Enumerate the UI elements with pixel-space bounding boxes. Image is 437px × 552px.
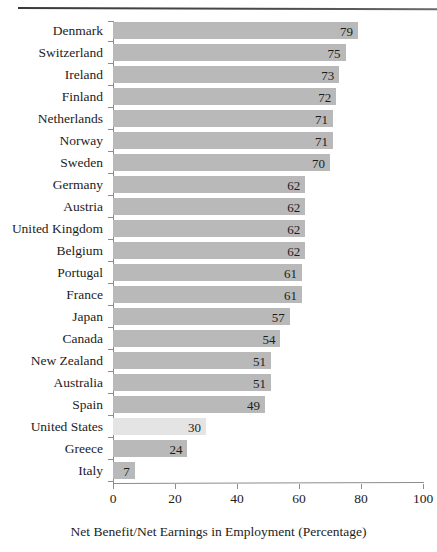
bar: 30 bbox=[113, 418, 206, 435]
bar: 71 bbox=[113, 132, 333, 149]
category-label: Netherlands bbox=[0, 110, 107, 127]
bar: 79 bbox=[113, 22, 358, 39]
y-axis-tick bbox=[108, 63, 113, 64]
bar: 57 bbox=[113, 308, 290, 325]
x-axis-tick-label: 40 bbox=[230, 491, 244, 506]
y-axis-tick bbox=[108, 41, 113, 42]
y-axis-tick bbox=[108, 173, 113, 174]
y-axis-tick bbox=[108, 129, 113, 130]
y-axis-tick bbox=[108, 85, 113, 86]
x-axis-tick-label: 60 bbox=[292, 491, 306, 506]
bar-value-label: 71 bbox=[315, 134, 333, 147]
category-label: Switzerland bbox=[0, 44, 107, 61]
category-label: Canada bbox=[0, 330, 107, 347]
category-label: Greece bbox=[0, 440, 107, 457]
y-axis-tick bbox=[108, 261, 113, 262]
bar: 72 bbox=[113, 88, 336, 105]
x-axis-tick-label: 80 bbox=[354, 491, 368, 506]
category-label: Italy bbox=[0, 462, 107, 479]
category-label: Sweden bbox=[0, 154, 107, 171]
bar-value-label: 62 bbox=[287, 222, 305, 235]
bar-value-label: 24 bbox=[169, 442, 187, 455]
x-axis-tick-label: 20 bbox=[168, 491, 182, 506]
y-axis-tick bbox=[108, 195, 113, 196]
x-axis-line bbox=[113, 482, 424, 484]
bar: 49 bbox=[113, 396, 265, 413]
bar: 24 bbox=[113, 440, 187, 457]
bar-value-label: 57 bbox=[272, 310, 290, 323]
y-axis-tick bbox=[108, 107, 113, 108]
bar: 51 bbox=[113, 374, 271, 391]
bar-value-label: 51 bbox=[253, 376, 271, 389]
category-label: France bbox=[0, 286, 107, 303]
y-axis-tick bbox=[108, 349, 113, 350]
y-axis-tick bbox=[108, 415, 113, 416]
bar-value-label: 71 bbox=[315, 112, 333, 125]
bar: 54 bbox=[113, 330, 280, 347]
category-label: Denmark bbox=[0, 22, 107, 39]
plot-area: 7975737271717062626262616157545151493024… bbox=[113, 18, 423, 480]
bar-value-label: 51 bbox=[253, 354, 271, 367]
category-label: Spain bbox=[0, 396, 107, 413]
category-label: New Zealand bbox=[0, 352, 107, 369]
category-label: United Kingdom bbox=[0, 220, 107, 237]
bar-value-label: 62 bbox=[287, 178, 305, 191]
bar-value-label: 75 bbox=[328, 46, 346, 59]
category-label: Portugal bbox=[0, 264, 107, 281]
bar-value-label: 72 bbox=[318, 90, 336, 103]
bar-value-label: 54 bbox=[262, 332, 280, 345]
bar-value-label: 49 bbox=[247, 398, 265, 411]
bar-value-label: 62 bbox=[287, 244, 305, 257]
x-axis-tick bbox=[423, 484, 424, 489]
bar-value-label: 7 bbox=[123, 464, 135, 477]
y-axis-tick bbox=[108, 481, 113, 482]
bar: 70 bbox=[113, 154, 330, 171]
bar: 61 bbox=[113, 264, 302, 281]
category-label: Ireland bbox=[0, 66, 107, 83]
x-axis-tick-label: 100 bbox=[413, 491, 433, 506]
category-label: United States bbox=[0, 418, 107, 435]
y-axis-tick bbox=[108, 327, 113, 328]
y-axis-tick bbox=[108, 239, 113, 240]
bar-value-label: 73 bbox=[321, 68, 339, 81]
bar-value-label: 61 bbox=[284, 266, 302, 279]
bar: 75 bbox=[113, 44, 346, 61]
y-axis-tick bbox=[108, 217, 113, 218]
y-axis-tick bbox=[108, 437, 113, 438]
bar-value-label: 30 bbox=[188, 420, 206, 433]
x-axis-tick bbox=[361, 484, 362, 489]
x-axis-tick bbox=[299, 484, 300, 489]
category-axis-labels: DenmarkSwitzerlandIrelandFinlandNetherla… bbox=[0, 18, 107, 480]
bar: 62 bbox=[113, 198, 305, 215]
bar-value-label: 62 bbox=[287, 200, 305, 213]
bar-value-label: 61 bbox=[284, 288, 302, 301]
bar: 61 bbox=[113, 286, 302, 303]
x-axis-tick bbox=[175, 484, 176, 489]
category-label: Austria bbox=[0, 198, 107, 215]
y-axis-tick bbox=[108, 371, 113, 372]
category-label: Belgium bbox=[0, 242, 107, 259]
bar-value-label: 70 bbox=[312, 156, 330, 169]
x-axis-tick bbox=[237, 484, 238, 489]
bar: 62 bbox=[113, 176, 305, 193]
y-axis-tick bbox=[108, 283, 113, 284]
bar-chart: DenmarkSwitzerlandIrelandFinlandNetherla… bbox=[0, 0, 437, 552]
bar: 71 bbox=[113, 110, 333, 127]
y-axis-tick bbox=[108, 393, 113, 394]
x-axis-title: Net Benefit/Net Earnings in Employment (… bbox=[0, 524, 437, 540]
bar: 62 bbox=[113, 242, 305, 259]
x-axis-tick-label: 0 bbox=[110, 491, 117, 506]
bar: 73 bbox=[113, 66, 339, 83]
bar: 51 bbox=[113, 352, 271, 369]
category-label: Australia bbox=[0, 374, 107, 391]
bar-value-label: 79 bbox=[340, 24, 358, 37]
y-axis-tick bbox=[108, 459, 113, 460]
y-axis-tick bbox=[108, 305, 113, 306]
bar: 62 bbox=[113, 220, 305, 237]
y-axis-tick bbox=[108, 21, 113, 22]
x-axis-tick bbox=[113, 484, 114, 489]
category-label: Norway bbox=[0, 132, 107, 149]
category-label: Germany bbox=[0, 176, 107, 193]
category-label: Finland bbox=[0, 88, 107, 105]
y-axis-tick bbox=[108, 151, 113, 152]
